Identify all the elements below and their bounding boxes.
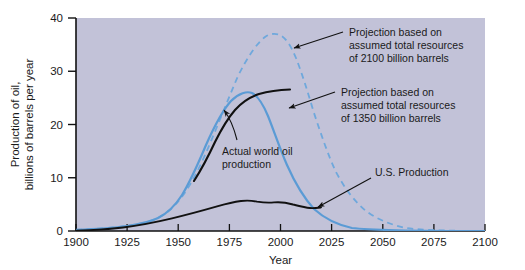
y-tick-label-30: 30	[50, 65, 63, 77]
annotation-projection-2100-line3: of 2100 billion barrels	[349, 52, 449, 64]
x-tick-label-1900: 1900	[63, 236, 89, 248]
annotation-projection-1350-line1: Projection based on	[341, 86, 434, 98]
annotation-projection-2100-line2: assumed total resources	[349, 39, 463, 51]
annotation-projection-1350-line3: of 1350 billion barrels	[341, 112, 441, 124]
annotation-actual-world-oil-line2: production	[222, 158, 271, 170]
x-tick-label-1950: 1950	[165, 236, 191, 248]
x-tick-label-2075: 2075	[421, 236, 447, 248]
oil-production-chart: 0 10 20 30 40 1900 1925 1950 1975 2000 2…	[0, 0, 525, 270]
y-tick-label-0: 0	[57, 225, 63, 237]
chart-svg: 0 10 20 30 40 1900 1925 1950 1975 2000 2…	[0, 0, 525, 270]
y-axis-title-line1: Production of oil,	[9, 82, 21, 168]
annotation-us-production: U.S. Production	[375, 166, 449, 178]
x-tick-label-1925: 1925	[114, 236, 140, 248]
x-tick-label-2050: 2050	[370, 236, 396, 248]
annotation-us-production-line1: U.S. Production	[375, 166, 449, 178]
y-tick-label-40: 40	[50, 12, 63, 24]
annotation-projection-2100-line1: Projection based on	[349, 26, 442, 38]
x-axis-title: Year	[269, 254, 292, 266]
y-tick-label-20: 20	[50, 119, 63, 131]
y-tick-label-10: 10	[50, 172, 63, 184]
x-tick-label-2000: 2000	[268, 236, 294, 248]
annotation-actual-world-oil-line1: Actual world oil	[222, 145, 293, 157]
y-tick-marks	[68, 18, 76, 231]
x-tick-label-1975: 1975	[217, 236, 243, 248]
x-tick-label-2100: 2100	[472, 236, 498, 248]
y-axis-title-line2: billions of barrels per year	[23, 58, 35, 190]
annotation-projection-1350-line2: assumed total resources	[341, 99, 455, 111]
x-tick-label-2025: 2025	[319, 236, 345, 248]
